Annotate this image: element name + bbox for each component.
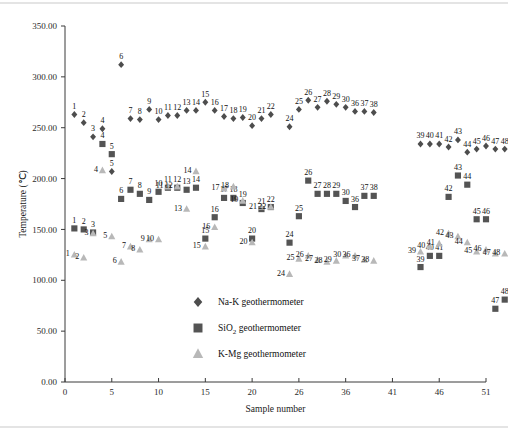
- data-point: [436, 141, 442, 148]
- series-sio2-geothermometer: 1234567891011121314151617181920212224252…: [71, 131, 508, 311]
- data-point-label: 30: [333, 250, 341, 259]
- data-point-label: 8: [138, 181, 142, 190]
- data-point: [71, 225, 77, 231]
- data-point: [296, 213, 302, 219]
- data-point: [370, 257, 377, 264]
- data-point: [71, 111, 77, 118]
- data-point-label: 12: [173, 103, 181, 112]
- data-point: [324, 191, 330, 197]
- data-point: [99, 167, 106, 174]
- data-point-label: 17: [212, 183, 220, 192]
- data-point: [333, 191, 339, 197]
- data-point: [80, 254, 87, 261]
- data-point-label: 21: [257, 106, 265, 115]
- data-point-label: 37: [360, 183, 368, 192]
- data-point-label: 13: [174, 204, 182, 213]
- data-point-label: 48: [492, 248, 500, 257]
- y-axis-tick-label: 0.00: [41, 377, 57, 387]
- data-point: [109, 151, 115, 157]
- data-point-label: 36: [343, 250, 351, 259]
- data-point-label: 5: [110, 159, 114, 168]
- data-point-label: 46: [474, 244, 482, 253]
- data-point: [221, 195, 227, 201]
- data-point: [464, 239, 471, 246]
- data-point: [361, 193, 367, 199]
- data-point-label: 29: [324, 255, 332, 264]
- data-point-label: 24: [277, 269, 285, 278]
- data-point-label: 14: [183, 166, 191, 175]
- data-point: [417, 264, 423, 270]
- data-point: [192, 168, 199, 175]
- data-point-label: 6: [113, 256, 117, 265]
- x-axis-tick-label: 26: [294, 387, 304, 397]
- x-axis-tick-label: 0: [63, 387, 68, 397]
- data-point: [211, 224, 218, 231]
- data-point-label: 38: [370, 183, 378, 192]
- data-point: [474, 216, 480, 222]
- data-point-label: 29: [332, 181, 340, 190]
- data-point: [193, 107, 199, 114]
- data-point-label: 5: [103, 231, 107, 240]
- data-point-label: 26: [296, 250, 304, 259]
- data-point: [118, 61, 124, 68]
- data-point: [287, 123, 293, 130]
- data-point-label: 19: [239, 105, 247, 114]
- data-point-label: 39: [417, 131, 425, 140]
- data-point-label: 44: [455, 237, 463, 246]
- data-point: [174, 112, 180, 119]
- data-point-label: 28: [314, 256, 322, 265]
- data-point-label: 19: [230, 195, 238, 204]
- data-point-label: 41: [435, 131, 443, 140]
- data-point: [221, 113, 227, 120]
- y-axis-tick-label: 300.00: [32, 72, 57, 82]
- data-point: [474, 146, 480, 153]
- data-point-label: 4: [100, 131, 104, 140]
- data-point: [136, 246, 143, 253]
- data-point-label: 28: [323, 89, 331, 98]
- data-point-label: 25: [295, 97, 303, 106]
- data-point-label: 14: [192, 175, 200, 184]
- data-point-label: 5: [110, 142, 114, 151]
- data-point-label: 15: [193, 241, 201, 250]
- data-point-label: 21: [249, 202, 257, 211]
- y-axis-tick-label: 150.00: [32, 225, 57, 235]
- data-point-label: 1: [72, 102, 76, 111]
- data-point: [361, 108, 367, 115]
- data-point-label: 37: [360, 99, 368, 108]
- legend-marker-diamond: [194, 297, 203, 307]
- data-point: [305, 97, 311, 104]
- x-axis-tick-label: 10: [154, 387, 164, 397]
- data-point: [436, 253, 442, 259]
- data-point-label: 43: [454, 127, 462, 136]
- data-point: [183, 205, 190, 212]
- data-point-label: 11: [156, 181, 164, 190]
- data-point: [455, 172, 461, 178]
- y-axis-tick-label: 350.00: [32, 21, 57, 31]
- data-point: [137, 191, 143, 197]
- data-point: [502, 146, 508, 153]
- data-point-label: 1: [72, 216, 76, 225]
- data-point-label: 2: [82, 110, 86, 119]
- data-point-label: 48: [501, 137, 508, 146]
- data-point-label: 45: [464, 246, 472, 255]
- data-point: [146, 106, 152, 113]
- data-point-label: 9: [147, 187, 151, 196]
- data-point: [446, 144, 452, 151]
- data-point-label: 25: [286, 253, 294, 262]
- data-point: [202, 236, 208, 242]
- data-point-label: 4: [94, 165, 98, 174]
- data-point: [352, 204, 358, 210]
- data-point-label: 6: [119, 52, 123, 61]
- data-point-label: 16: [211, 98, 219, 107]
- data-point: [212, 107, 218, 114]
- data-point: [492, 306, 498, 312]
- data-point-label: 47: [491, 296, 499, 305]
- data-point: [483, 143, 489, 150]
- data-point: [212, 214, 218, 220]
- data-point: [118, 258, 125, 265]
- data-point-label: 20: [240, 237, 248, 246]
- x-axis-tick-label: 41: [388, 387, 397, 397]
- data-point-label: 27: [314, 181, 322, 190]
- data-point: [108, 233, 115, 240]
- data-point-label: 42: [445, 184, 453, 193]
